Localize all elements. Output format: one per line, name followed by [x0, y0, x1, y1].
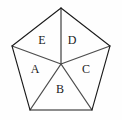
region-label-e: E: [38, 33, 45, 47]
region-label-b: B: [56, 82, 64, 96]
pentagon-diagram: A B C D E: [0, 0, 122, 120]
region-label-c: C: [82, 62, 90, 76]
pentagon-figure: A B C D E: [0, 0, 122, 120]
region-label-a: A: [31, 62, 40, 76]
region-label-d: D: [68, 33, 77, 47]
